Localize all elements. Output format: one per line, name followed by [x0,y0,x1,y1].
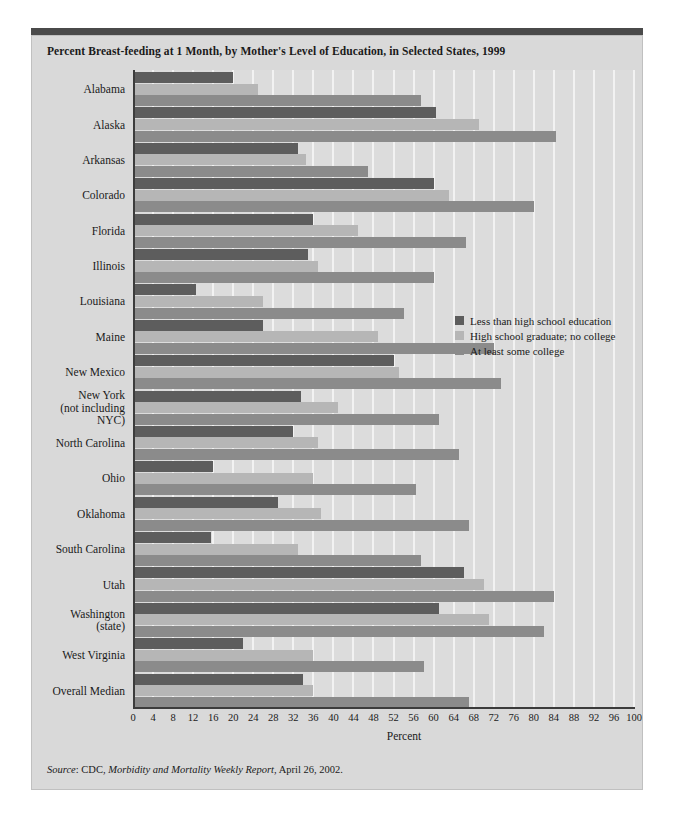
x-axis-tick-16: 16 [208,712,219,723]
bar-alaska-series-0 [133,107,436,118]
x-axis-tick-52: 52 [388,712,399,723]
legend-swatch-icon [455,316,464,325]
y-axis-label-line: Oklahoma [0,508,125,521]
y-axis-label-alabama: Alabama [0,83,125,96]
x-axis-tick-44: 44 [348,712,359,723]
x-axis-tick-12: 12 [188,712,199,723]
bar-louisiana-series-2 [133,308,404,319]
x-axis-tick-100: 100 [626,712,642,723]
y-axis-label-line: Utah [0,579,125,592]
bar-alabama-series-1 [133,84,258,95]
x-axis-tick-64: 64 [448,712,459,723]
y-axis-label-line: Alabama [0,83,125,96]
x-axis-tick-80: 80 [529,712,540,723]
gridline [553,70,555,707]
y-axis-label-line: North Carolina [0,437,125,450]
bar-new-mexico-series-0 [133,355,394,366]
y-axis-line [133,70,135,708]
y-axis-label-oklahoma: Oklahoma [0,508,125,521]
bar-utah-series-0 [133,567,464,578]
bar-colorado-series-0 [133,178,434,189]
y-axis-label-line: Washington [0,608,125,621]
source-text-b: , April 26, 2002. [274,764,343,775]
legend-item-1[interactable]: High school graduate; no college [455,329,615,342]
y-axis-label-line: New Mexico [0,366,125,379]
bar-south-carolina-series-1 [133,544,298,555]
y-axis-label-illinois: Illinois [0,260,125,273]
gridline [533,70,535,707]
x-axis-tick-48: 48 [368,712,379,723]
y-axis-label-west-virginia: West Virginia [0,649,125,662]
y-axis-label-line: Louisiana [0,295,125,308]
bar-washington-series-0 [133,603,439,614]
bar-illinois-series-0 [133,249,308,260]
bar-south-carolina-series-0 [133,532,211,543]
bar-ohio-series-1 [133,473,313,484]
bar-louisiana-series-1 [133,296,263,307]
bar-north-carolina-series-0 [133,426,293,437]
bar-florida-series-1 [133,225,358,236]
x-axis-tick-60: 60 [428,712,439,723]
chart-page: Percent Breast-feeding at 1 Month, by Mo… [0,0,674,819]
y-axis-label-line: Ohio [0,472,125,485]
x-axis-tick-68: 68 [468,712,479,723]
x-axis-tick-40: 40 [328,712,339,723]
y-axis-label-north-carolina: North Carolina [0,437,125,450]
bar-overall-median-series-0 [133,674,303,685]
y-axis-label-arkansas: Arkansas [0,154,125,167]
x-axis-tick-88: 88 [569,712,580,723]
y-axis-label-south-carolina: South Carolina [0,543,125,556]
legend-label: Less than high school education [470,315,611,327]
y-axis-label-alaska: Alaska [0,119,125,132]
chart-panel: Percent Breast-feeding at 1 Month, by Mo… [31,35,643,790]
y-axis-label-washington: Washington(state) [0,608,125,633]
bar-illinois-series-1 [133,261,318,272]
bar-colorado-series-2 [133,201,534,212]
bar-illinois-series-2 [133,272,434,283]
bar-ohio-series-2 [133,484,416,495]
y-axis-label-new-mexico: New Mexico [0,366,125,379]
bar-oklahoma-series-2 [133,520,469,531]
bar-washington-series-1 [133,614,489,625]
y-axis-label-line: Maine [0,331,125,344]
y-axis-label-utah: Utah [0,579,125,592]
bar-west-virginia-series-1 [133,650,313,661]
bar-maine-series-0 [133,320,263,331]
y-axis-label-line: (state) [0,620,125,633]
bar-west-virginia-series-0 [133,638,243,649]
bar-maine-series-1 [133,331,378,342]
y-axis-label-colorado: Colorado [0,189,125,202]
y-axis-label-line: Florida [0,225,125,238]
x-axis-tick-96: 96 [609,712,620,723]
bar-new-york-series-0 [133,391,301,402]
y-axis-label-line: Alaska [0,119,125,132]
bar-florida-series-2 [133,237,466,248]
bar-new-mexico-series-2 [133,378,501,389]
x-axis-line [133,707,635,709]
bar-north-carolina-series-1 [133,437,318,448]
y-axis-label-maine: Maine [0,331,125,344]
legend-item-0[interactable]: Less than high school education [455,314,615,327]
y-axis-label-line: South Carolina [0,543,125,556]
bar-utah-series-2 [133,591,554,602]
x-axis-tick-92: 92 [589,712,600,723]
y-axis-label-louisiana: Louisiana [0,295,125,308]
y-axis-label-line: West Virginia [0,649,125,662]
bar-new-mexico-series-1 [133,367,399,378]
source-prefix: Source [47,764,76,775]
bar-arkansas-series-2 [133,166,368,177]
legend-swatch-icon [455,346,464,355]
plot-area [133,70,634,707]
y-axis-label-line: Illinois [0,260,125,273]
gridline [613,70,615,707]
y-axis-label-line: Arkansas [0,154,125,167]
legend-item-2[interactable]: At least some college [455,344,615,357]
bar-alaska-series-1 [133,119,479,130]
x-axis-tick-76: 76 [509,712,520,723]
y-axis-label-new-york: New York(not includingNYC) [0,389,125,427]
x-axis-tick-4: 4 [150,712,155,723]
x-axis-tick-0: 0 [130,712,135,723]
x-axis-tick-24: 24 [248,712,259,723]
x-axis-tick-20: 20 [228,712,239,723]
top-rule [31,28,643,35]
